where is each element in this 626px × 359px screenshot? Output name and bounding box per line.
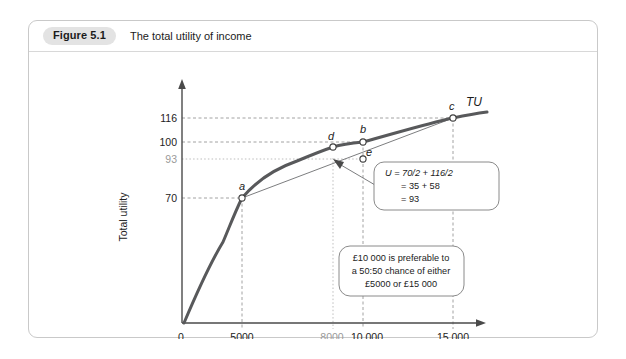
point-c-label: c (449, 100, 455, 112)
y-axis-title: Total utility (117, 192, 129, 242)
xtick-label-0: 0 (178, 331, 184, 339)
xtick-label-10000: 10 000 (351, 331, 383, 339)
gridline-group (182, 118, 453, 329)
point-c[interactable] (450, 115, 456, 121)
chart-plot-area: a d b e c TU 116 100 93 70 0 5000 8000 1… (29, 52, 599, 339)
point-a[interactable] (239, 195, 245, 201)
point-a-label: a (239, 180, 245, 192)
ytick-label-116: 116 (160, 112, 177, 124)
point-d[interactable] (330, 144, 336, 150)
screenshot-root: Figure 5.1 The total utility of income (0, 0, 626, 359)
figure-number-badge: Figure 5.1 (43, 27, 116, 45)
calc-callout-arrowhead (333, 159, 344, 169)
xtick-label-8000: 8000 (320, 331, 344, 339)
calc-callout-line-1: U = 70/2 + 116/2 (385, 168, 453, 178)
figure-caption: The total utility of income (130, 30, 252, 43)
preference-callout-line-1: £10 000 is preferable to (353, 253, 450, 263)
xtick-label-5000: 5000 (230, 331, 254, 339)
ytick-label-100: 100 (159, 136, 177, 148)
total-utility-chart: a d b e c TU 116 100 93 70 0 5000 8000 1… (29, 52, 599, 339)
preference-callout-line-3: £5000 or £15 000 (365, 279, 437, 289)
point-b[interactable] (360, 139, 366, 145)
y-axis-arrowhead (178, 79, 186, 89)
calc-callout-line-2: = 35 + 58 (401, 181, 440, 191)
point-e-label: e (366, 146, 372, 158)
figure-container: Figure 5.1 The total utility of income (28, 20, 598, 338)
calc-callout-line-3: = 93 (401, 194, 419, 204)
xtick-label-15000: 15 000 (437, 331, 469, 339)
ytick-label-93: 93 (165, 153, 177, 165)
point-b-label: b (360, 123, 366, 135)
tu-curve-label: TU (466, 95, 482, 109)
point-d-label: d (328, 130, 335, 142)
x-axis-arrowhead (476, 319, 486, 327)
figure-header: Figure 5.1 The total utility of income (29, 21, 597, 52)
preference-callout-line-2: a 50:50 chance of either (352, 266, 451, 276)
ytick-label-70: 70 (165, 192, 177, 204)
